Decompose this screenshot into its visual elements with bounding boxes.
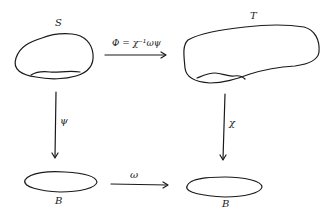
label-psi: ψ (60, 116, 68, 126)
set-s-subregion (31, 71, 80, 75)
label-b-right: B (222, 199, 229, 209)
label-b-left: B (55, 196, 62, 206)
label-phi: Φ = χ⁻¹ωψ (112, 39, 161, 48)
set-b-right-ellipse (187, 177, 262, 197)
arrow-psi (55, 92, 56, 157)
label-s: S (55, 18, 62, 28)
label-chi: χ (229, 118, 235, 128)
set-t-blob (184, 25, 319, 83)
arrow-chi (223, 94, 225, 159)
label-t: T (250, 11, 257, 21)
arrow-omega (111, 184, 167, 185)
set-b-left-ellipse (25, 172, 97, 192)
diagram-canvas (0, 0, 329, 219)
label-omega: ω (130, 170, 138, 180)
